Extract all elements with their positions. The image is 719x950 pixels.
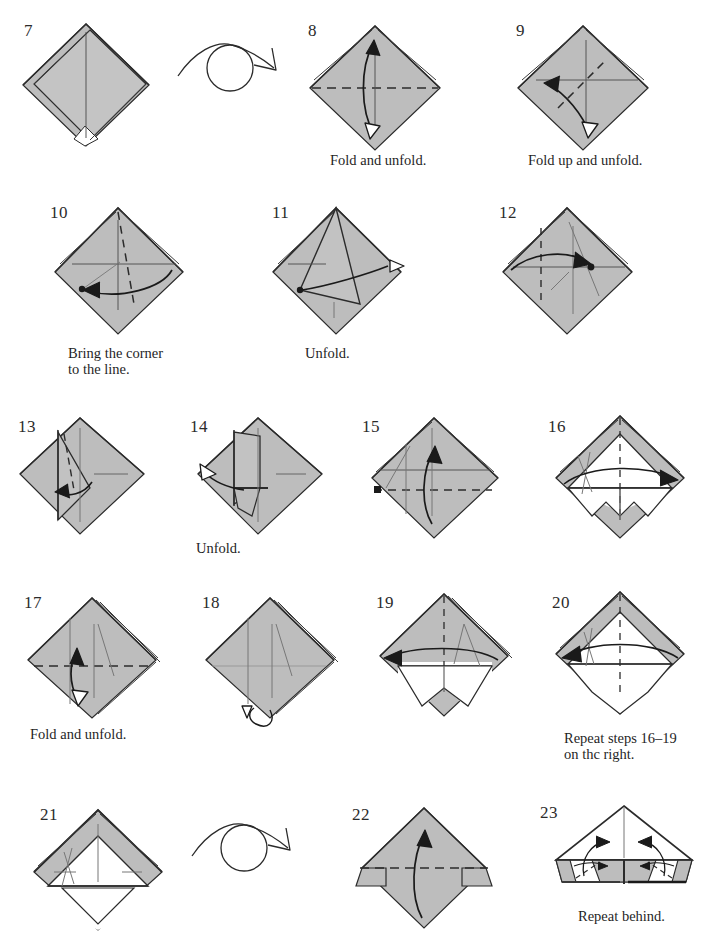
step-number: 16 <box>548 418 566 435</box>
step-number: 23 <box>540 804 558 821</box>
step-diagram-7: 7 <box>18 18 158 153</box>
step-diagram-8: 8 <box>300 18 450 153</box>
step-diagram-17: 17 <box>20 588 170 720</box>
step-diagram-13: 13 <box>18 412 158 540</box>
diagram-svg-8 <box>300 18 450 153</box>
diagram-svg-11 <box>268 200 428 335</box>
diagram-svg-15 <box>362 412 512 540</box>
diagram-svg-10 <box>50 200 200 335</box>
step-number: 14 <box>190 418 208 435</box>
step-diagram-10: 10 <box>50 200 200 335</box>
diagram-svg-23 <box>540 800 705 910</box>
step-diagram-21: 21 <box>18 800 168 930</box>
step-diagram-12: 12 <box>495 200 650 335</box>
step-diagram-9: 9 <box>508 18 658 153</box>
step-number: 7 <box>24 22 33 39</box>
diagram-svg-9 <box>508 18 658 153</box>
step-number: 20 <box>552 594 570 611</box>
step-diagram-18: 18 <box>198 588 348 730</box>
step-caption: Fold up and unfold. <box>528 152 642 168</box>
diagram-svg-12 <box>495 200 650 335</box>
step-diagram-19: 19 <box>372 588 522 723</box>
step-number: 17 <box>24 594 42 611</box>
diagram-svg-18 <box>198 588 348 730</box>
step-caption: Bring the corner to the line. <box>68 345 163 377</box>
step-diagram-15: 15 <box>362 412 512 540</box>
diagram-svg-19 <box>372 588 522 723</box>
diagram-svg-14 <box>190 412 335 540</box>
step-number: 19 <box>376 594 394 611</box>
step-caption: Repeat behind. <box>578 908 665 924</box>
step-diagram-16: 16 <box>548 412 698 540</box>
step-number: 21 <box>40 806 58 823</box>
step-diagram-11: 11 <box>268 200 428 335</box>
diagram-svg-17 <box>20 588 170 720</box>
diagram-svg-13 <box>18 412 158 540</box>
diagram-svg-7 <box>18 18 158 153</box>
turn-over-arrow <box>176 32 288 104</box>
step-caption: Fold and unfold. <box>330 152 426 168</box>
step-number: 18 <box>202 594 220 611</box>
step-number: 8 <box>308 22 317 39</box>
step-diagram-23: 23 <box>540 800 705 910</box>
step-diagram-20: 20 <box>548 588 698 723</box>
step-diagram-14: 14 <box>190 412 335 540</box>
step-number: 10 <box>50 204 68 221</box>
step-caption: Fold and unfold. <box>30 726 126 742</box>
step-number: 22 <box>352 806 370 823</box>
step-number: 15 <box>362 418 380 435</box>
diagram-svg-20 <box>548 588 698 723</box>
step-caption: Unfold. <box>305 345 350 361</box>
turn-over-arrow <box>190 812 302 884</box>
step-number: 12 <box>499 204 517 221</box>
instruction-sheet: 7 8 <box>0 0 719 950</box>
diagram-svg-16 <box>548 412 698 540</box>
step-caption: Repeat steps 16–19 on thc right. <box>564 730 677 762</box>
step-diagram-22: 22 <box>352 800 502 930</box>
step-number: 13 <box>18 418 36 435</box>
step-caption: Unfold. <box>196 540 241 556</box>
diagram-svg-22 <box>352 800 502 930</box>
step-number: 9 <box>516 22 525 39</box>
step-number: 11 <box>272 204 289 221</box>
